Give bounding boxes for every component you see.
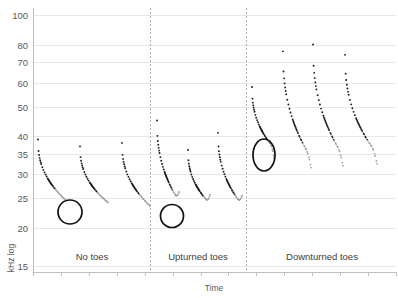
call-point [256, 119, 258, 121]
call-point [41, 166, 43, 168]
call-point [192, 178, 194, 180]
y-axis-title: kHz log [6, 244, 16, 273]
call-curve-call-6 [217, 132, 243, 201]
call-point [171, 187, 173, 189]
call-point [219, 156, 221, 158]
call-point [310, 164, 312, 166]
call-point [107, 202, 109, 204]
call-point [188, 165, 190, 167]
call-point [42, 169, 44, 171]
call-point [208, 197, 210, 199]
call-point [258, 123, 260, 125]
call-point [313, 72, 315, 74]
call-point [299, 136, 301, 138]
call-point [44, 171, 46, 173]
call-point [218, 150, 220, 152]
call-point [340, 157, 342, 159]
call-point [283, 77, 285, 79]
call-point [347, 88, 349, 90]
call-point [86, 176, 88, 178]
call-point [123, 161, 125, 163]
call-point [136, 191, 138, 193]
call-point [218, 146, 220, 148]
call-point [157, 140, 159, 142]
call-point [335, 143, 337, 145]
call-point [344, 54, 346, 56]
call-point [376, 160, 378, 162]
y-tick-label-70: 70 [17, 57, 28, 68]
call-point [80, 160, 82, 162]
call-point [129, 178, 131, 180]
call-point [351, 107, 353, 109]
call-point [40, 161, 42, 163]
call-curve-call-1 [37, 139, 67, 202]
call-point [124, 167, 126, 169]
call-point [309, 159, 311, 161]
call-point [285, 90, 287, 92]
call-point [149, 205, 151, 207]
call-point [320, 108, 322, 110]
call-point [308, 157, 310, 159]
y-tick-label-25: 25 [17, 193, 28, 204]
call-point [254, 114, 256, 116]
y-tick-label-35: 35 [17, 149, 28, 160]
call-point [158, 150, 160, 152]
call-point [161, 163, 163, 165]
call-point [353, 111, 355, 113]
gridlines [33, 16, 396, 267]
call-point [271, 146, 273, 148]
call-point [354, 114, 356, 116]
call-point [223, 171, 225, 173]
call-point [287, 104, 289, 106]
call-point [230, 187, 232, 189]
call-point [317, 94, 319, 96]
call-point [376, 163, 378, 165]
call-point [222, 168, 224, 170]
x-axis [33, 8, 397, 276]
call-point [284, 87, 286, 89]
call-point [190, 173, 192, 175]
call-point [251, 98, 253, 100]
call-point [231, 190, 233, 192]
call-point [337, 146, 339, 148]
annotation-ellipse-upturned-toes [161, 205, 184, 228]
call-point [332, 137, 334, 139]
call-curves [37, 44, 378, 207]
call-point [37, 139, 39, 141]
call-point [339, 151, 341, 153]
call-point [80, 156, 82, 158]
call-point [319, 104, 321, 106]
call-point [172, 189, 174, 191]
call-point [79, 145, 81, 147]
call-point [367, 140, 369, 142]
call-point [365, 137, 367, 139]
call-point [159, 156, 161, 158]
call-point [130, 180, 132, 182]
call-point [306, 151, 308, 153]
call-point [291, 115, 293, 117]
call-point [240, 198, 242, 200]
call-point [342, 162, 344, 164]
call-point [342, 165, 344, 167]
call-point [304, 146, 306, 148]
call-point [347, 91, 349, 93]
call-point [138, 193, 140, 195]
call-point [163, 169, 165, 171]
y-tick-label-80: 80 [17, 40, 28, 51]
call-point [158, 147, 160, 149]
call-point [124, 165, 126, 167]
category-label-2: Upturned toes [168, 251, 228, 262]
call-point [254, 111, 256, 113]
call-point [318, 99, 320, 101]
call-point [39, 157, 41, 159]
call-curve-call-4 [156, 120, 180, 197]
call-point [233, 192, 235, 194]
call-point [189, 169, 191, 171]
call-point [187, 149, 189, 151]
y-tick-label-30: 30 [17, 169, 28, 180]
call-point [369, 143, 371, 145]
category-labels: No toesUpturned toesDownturned toes [76, 251, 359, 262]
call-point [285, 93, 287, 95]
call-point [157, 144, 159, 146]
call-point [348, 94, 350, 96]
